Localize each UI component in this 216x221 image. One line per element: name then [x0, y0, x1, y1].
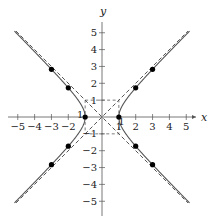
x-tick-label: −4	[27, 121, 42, 132]
x-tick-label: 2	[133, 121, 139, 132]
x-tick-label: 5	[183, 121, 189, 132]
y-axis-label: y	[99, 5, 107, 18]
y-tick-label: −1	[82, 128, 97, 139]
y-tick-label: 2	[91, 78, 97, 89]
x-axis-label: x	[201, 111, 208, 124]
y-tick-label: 1	[91, 95, 97, 106]
y-tick-label: 5	[91, 27, 97, 38]
data-point	[49, 162, 54, 167]
x-tick-label: −2	[61, 121, 76, 132]
x-axis-arrow-icon	[192, 115, 196, 119]
x-tick-label: 3	[149, 121, 155, 132]
vertex-label: 1	[118, 116, 124, 127]
data-point	[133, 85, 138, 90]
x-tick-label: −3	[44, 121, 59, 132]
data-point	[150, 162, 155, 167]
y-tick-label: 4	[91, 44, 97, 55]
y-tick-label: −2	[82, 145, 97, 156]
vertex-label: 1	[77, 109, 83, 120]
data-point	[66, 144, 71, 149]
data-point	[83, 114, 88, 119]
y-tick-label: −5	[82, 196, 97, 207]
data-point	[150, 67, 155, 72]
data-point	[49, 67, 54, 72]
data-point	[66, 85, 71, 90]
y-tick-label: −3	[82, 162, 97, 173]
y-tick-label: 3	[91, 61, 97, 72]
plot-canvas: −5−4−3−21234554321−1−2−3−4−511 x y	[0, 0, 216, 221]
data-point	[133, 144, 138, 149]
hyperbola-plot: −5−4−3−21234554321−1−2−3−4−511 x y	[0, 0, 216, 221]
x-tick-label: 4	[166, 121, 172, 132]
x-tick-label: −5	[10, 121, 25, 132]
y-tick-label: −4	[82, 179, 97, 190]
